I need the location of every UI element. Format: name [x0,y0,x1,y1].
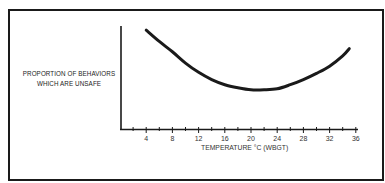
x-tick-label: 32 [326,135,334,142]
x-axis-tick-labels: 4812162024283236 [144,135,360,142]
x-axis-label: TEMPERATURE °C (WBGT) [201,144,288,152]
x-tick-label: 24 [273,135,281,142]
x-tick-label: 8 [170,135,174,142]
line-chart: 4812162024283236 TEMPERATURE °C (WBGT) [0,0,385,183]
x-tick-label: 28 [300,135,308,142]
x-tick-label: 16 [221,135,229,142]
x-tick-label: 4 [144,135,148,142]
data-line [146,30,349,90]
x-tick-label: 20 [247,135,255,142]
axes [120,26,358,130]
x-tick-label: 36 [352,135,360,142]
x-tick-label: 12 [195,135,203,142]
